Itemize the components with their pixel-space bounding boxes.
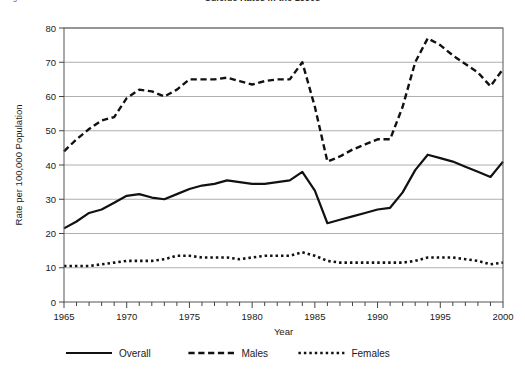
- figure-container: Fig. Suicide Rates in the 1990s 19651970…: [0, 0, 525, 374]
- series-line-overall: [64, 155, 503, 229]
- y-tick-label-20: 20: [45, 228, 56, 239]
- legend-item-overall: Overall: [66, 348, 151, 359]
- y-tick-label-70: 70: [45, 57, 56, 68]
- y-axis-ticks: 01020304050607080: [45, 23, 64, 308]
- legend-item-females: Females: [298, 348, 389, 359]
- x-axis-ticks: 19651970197519801985199019952000: [53, 302, 513, 322]
- x-tick-label-1995: 1995: [430, 311, 451, 322]
- legend-label-overall: Overall: [119, 348, 151, 359]
- series-line-males: [64, 38, 503, 161]
- x-tick-label-1980: 1980: [242, 311, 263, 322]
- legend-label-females: Females: [351, 348, 389, 359]
- series-group: [64, 38, 503, 266]
- gridlines-group: [64, 28, 503, 268]
- x-axis-title: Year: [274, 326, 293, 337]
- y-tick-label-10: 10: [45, 262, 56, 273]
- y-tick-label-80: 80: [45, 23, 56, 34]
- x-tick-label-2000: 2000: [492, 311, 513, 322]
- series-line-females: [64, 252, 503, 266]
- x-tick-label-1975: 1975: [179, 311, 200, 322]
- x-tick-label-1985: 1985: [304, 311, 325, 322]
- y-tick-label-30: 30: [45, 194, 56, 205]
- y-tick-label-40: 40: [45, 160, 56, 171]
- x-tick-label-1970: 1970: [116, 311, 137, 322]
- x-tick-label-1990: 1990: [367, 311, 388, 322]
- y-tick-label-50: 50: [45, 125, 56, 136]
- legend-item-males: Males: [188, 348, 268, 359]
- figure-title: Suicide Rates in the 1990s: [0, 0, 525, 3]
- y-tick-label-0: 0: [51, 297, 56, 308]
- chart-legend: OverallMalesFemales: [66, 348, 390, 359]
- y-tick-label-60: 60: [45, 91, 56, 102]
- legend-label-males: Males: [241, 348, 268, 359]
- line-chart: 19651970197519801985199019952000 0102030…: [0, 0, 525, 374]
- y-axis-title: Rate per 100,000 Population: [13, 105, 24, 226]
- x-tick-label-1965: 1965: [53, 311, 74, 322]
